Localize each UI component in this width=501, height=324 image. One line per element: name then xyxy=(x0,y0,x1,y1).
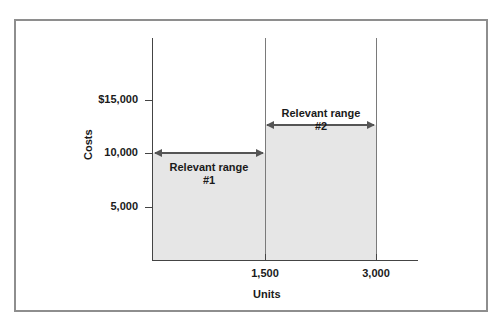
x-tick-1500 xyxy=(265,254,266,260)
range-2-label-line1: Relevant range xyxy=(265,107,377,120)
y-tick-label-15000: $15,000 xyxy=(68,93,138,105)
range-boundary-1500 xyxy=(265,38,266,260)
y-tick-10000 xyxy=(145,153,152,154)
range-2-label: Relevant range #2 xyxy=(265,107,377,133)
range-1-arrow xyxy=(155,152,263,154)
x-tick-label-3000: 3,000 xyxy=(346,267,406,279)
range-2-label-line2: #2 xyxy=(265,120,377,133)
y-tick-15000 xyxy=(145,100,152,101)
range-boundary-3000 xyxy=(376,38,377,260)
y-axis xyxy=(152,38,153,261)
y-tick-label-10000: 10,000 xyxy=(68,146,138,158)
x-tick-3000 xyxy=(376,254,377,260)
x-tick-label-1500: 1,500 xyxy=(235,267,295,279)
range-1-label: Relevant range #1 xyxy=(153,161,265,187)
range-2-area xyxy=(265,125,376,260)
x-axis xyxy=(152,260,418,261)
range-1-label-line1: Relevant range xyxy=(153,161,265,174)
x-axis-title: Units xyxy=(253,288,281,300)
y-axis-title: Costs xyxy=(82,129,94,160)
y-tick-label-5000: 5,000 xyxy=(68,200,138,212)
range-1-label-line2: #1 xyxy=(153,174,265,187)
y-tick-5000 xyxy=(145,207,152,208)
